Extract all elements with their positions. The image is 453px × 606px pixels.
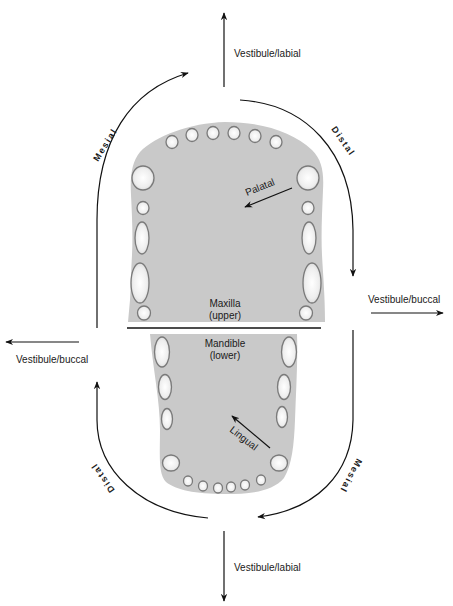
maxilla-tooth	[166, 136, 178, 149]
vestibule-buccal-right-label: Vestibule/buccal	[368, 294, 440, 305]
maxilla-tooth	[132, 166, 154, 190]
mandible-tooth	[184, 476, 193, 486]
maxilla-tooth	[137, 202, 149, 215]
maxilla-tooth	[131, 263, 149, 303]
mandible-tooth	[282, 337, 297, 367]
mandible-tooth	[199, 481, 208, 491]
maxilla-label: Maxilla	[209, 298, 241, 309]
mandible-tooth	[159, 375, 172, 400]
vestibule-buccal-left-label: Vestibule/buccal	[16, 354, 88, 365]
maxilla-sublabel: (upper)	[209, 310, 241, 321]
maxilla-tooth	[135, 222, 149, 254]
mandible-tooth	[155, 337, 170, 367]
mandible-tooth	[214, 483, 223, 493]
maxilla-tooth	[297, 166, 319, 190]
maxilla-tooth	[302, 202, 314, 215]
lower-mesial-label: Mesial	[338, 457, 364, 494]
maxilla-tooth	[270, 136, 282, 149]
maxilla-tooth	[303, 263, 321, 303]
maxilla-tooth	[186, 129, 198, 142]
mandible-tooth	[277, 407, 288, 428]
maxilla-tooth	[302, 222, 316, 254]
mandible-tooth	[257, 475, 266, 485]
mandible-group: Lingual Mandible (lower)	[150, 334, 297, 494]
vestibule-labial-bottom-label: Vestibule/labial	[234, 562, 301, 573]
maxilla-tooth	[138, 306, 151, 320]
mandible-tooth	[163, 455, 180, 471]
mandible-tooth	[278, 375, 291, 400]
maxilla-tooth	[249, 130, 261, 143]
maxilla-tooth	[228, 127, 240, 140]
maxilla-shape	[128, 122, 325, 322]
vestibule-labial-top-label: Vestibule/labial	[234, 48, 301, 59]
maxilla-tooth	[300, 306, 313, 320]
mandible-tooth	[241, 480, 250, 490]
mandible-tooth	[162, 409, 173, 430]
mandible-tooth	[271, 455, 288, 471]
dental-orientation-diagram: Palatal Maxilla (upper) Lingual Mandible…	[0, 0, 453, 606]
mandible-label: Mandible	[205, 338, 246, 349]
maxilla-group: Palatal Maxilla (upper)	[128, 122, 325, 322]
mandible-sublabel: (lower)	[210, 350, 241, 361]
maxilla-tooth	[207, 127, 219, 140]
mandible-tooth	[227, 482, 236, 492]
lower-distal-label: Distal	[89, 461, 117, 495]
